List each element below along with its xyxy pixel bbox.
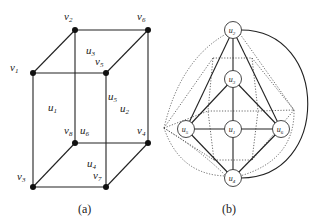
face-label-u4: u4 — [87, 157, 97, 171]
vertex-label-v3: v3 — [17, 170, 26, 184]
graph-edge — [186, 129, 233, 178]
face-label-u1: u1 — [48, 101, 57, 115]
vertex-dot-v4 — [145, 140, 151, 146]
vertex-dot-v6 — [145, 27, 151, 33]
dual-edge — [252, 58, 294, 110]
dual-edge-outer — [240, 34, 294, 110]
vertex-label-v7: v7 — [93, 169, 102, 183]
face-label-u3: u3 — [86, 44, 96, 58]
cube-edge — [33, 143, 75, 187]
vertex-dot-v7 — [103, 184, 109, 190]
cube-edge — [106, 30, 148, 73]
figure-a-cube: v1v2v3v4v5v6v7v8u1u2u3u4u5u6 — [10, 10, 151, 190]
vertex-dot-v1 — [30, 70, 36, 76]
node-u2: u2 — [225, 22, 242, 39]
dual-edge — [252, 58, 258, 111]
diagram-canvas: v1v2v3v4v5v6v7v8u1u2u3u4u5u6 u1u2u3u4u5u… — [0, 0, 335, 221]
figure-b-octahedron-graph: u1u2u3u4u5u6 — [164, 22, 308, 187]
vertex-dot-v8 — [72, 140, 78, 146]
dual-edge-outer — [164, 34, 226, 128]
curved-edge-u2-u4 — [241, 30, 308, 178]
caption-a: (a) — [78, 202, 91, 216]
node-u3: u3 — [225, 71, 242, 88]
vertex-label-v1: v1 — [10, 61, 18, 75]
face-label-u2: u2 — [120, 102, 130, 116]
face-label-u5: u5 — [108, 90, 118, 104]
vertex-dot-v5 — [103, 70, 109, 76]
vertex-dot-v2 — [72, 27, 78, 33]
node-u4: u4 — [225, 170, 242, 187]
node-u1: u1 — [225, 121, 242, 138]
vertex-label-v2: v2 — [64, 10, 73, 24]
vertex-label-v5: v5 — [95, 55, 104, 69]
node-u5: u5 — [178, 121, 195, 138]
graph-edge — [233, 129, 281, 178]
vertex-dot-v3 — [30, 184, 36, 190]
vertex-label-v8: v8 — [64, 124, 73, 138]
dual-dotted-edges — [164, 34, 294, 176]
face-label-u6: u6 — [80, 124, 90, 138]
dual-edge-outer — [164, 128, 226, 176]
dual-edge-outer — [164, 128, 226, 176]
cube-edge — [33, 30, 75, 73]
caption-b: (b) — [222, 202, 236, 216]
graph-edge — [233, 79, 281, 129]
cube-edge — [106, 143, 148, 187]
node-u6: u6 — [273, 121, 290, 138]
vertex-label-v6: v6 — [137, 10, 146, 24]
vertex-label-v4: v4 — [137, 124, 146, 138]
